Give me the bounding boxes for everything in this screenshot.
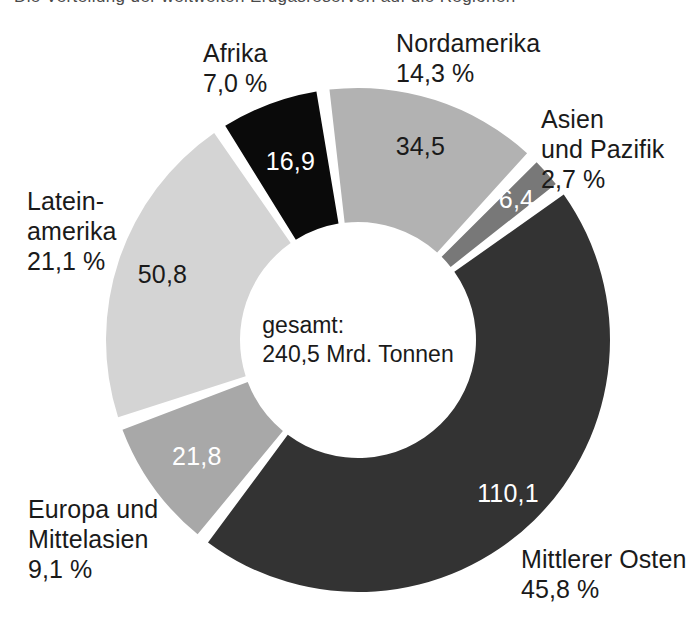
category-label-lateinamerika: Latein- amerika 21,1 % — [27, 186, 117, 276]
category-label-europa-name-1: Europa und — [28, 495, 158, 523]
category-label-afrika-percent: 7,0 % — [203, 68, 268, 98]
category-label-latein-percent: 21,1 % — [27, 246, 117, 276]
chart-page: Die Verteilung der weltweiten Erdgasrese… — [0, 0, 693, 619]
slice-value-nordamerika: 34,5 — [396, 134, 445, 159]
slice-value-lateinamerika: 50,8 — [138, 261, 187, 286]
category-label-europa-percent: 9,1 % — [28, 554, 158, 584]
category-label-latein-name-1: Latein- — [27, 187, 104, 215]
category-label-nordamerika-name: Nordamerika — [396, 29, 540, 57]
center-total-line1: gesamt: — [262, 311, 453, 340]
category-label-afrika: Afrika 7,0 % — [203, 38, 268, 98]
donut-chart: 34,5 6,4 110,1 21,8 50,8 16,9 Afrika 7,0… — [0, 0, 693, 619]
category-label-asien-percent: 2,7 % — [541, 164, 664, 194]
category-label-europa-mittelasien: Europa und Mittelasien 9,1 % — [28, 494, 158, 584]
center-total-line2: 240,5 Mrd. Tonnen — [262, 340, 453, 369]
center-total-label: gesamt: 240,5 Mrd. Tonnen — [262, 311, 453, 369]
category-label-afrika-name: Afrika — [203, 39, 268, 67]
category-label-asien-pazifik: Asien und Pazifik 2,7 % — [541, 104, 664, 194]
category-label-mittlerer-percent: 45,8 % — [521, 574, 686, 604]
category-label-mittlerer-osten: Mittlerer Osten 45,8 % — [521, 544, 686, 604]
category-label-asien-name-1: Asien — [541, 105, 604, 133]
slice-value-afrika: 16,9 — [266, 148, 315, 173]
slice-value-mittlerer-osten: 110,1 — [477, 481, 539, 506]
category-label-latein-name-2: amerika — [27, 216, 117, 246]
category-label-nordamerika: Nordamerika 14,3 % — [396, 28, 540, 88]
category-label-mittlerer-name: Mittlerer Osten — [521, 545, 686, 573]
category-label-asien-name-2: und Pazifik — [541, 134, 664, 164]
category-label-nordamerika-percent: 14,3 % — [396, 58, 540, 88]
slice-value-europa-mittelasien: 21,8 — [172, 443, 221, 468]
slice-value-asien-pazifik: 6,4 — [499, 187, 534, 212]
category-label-europa-name-2: Mittelasien — [28, 524, 158, 554]
